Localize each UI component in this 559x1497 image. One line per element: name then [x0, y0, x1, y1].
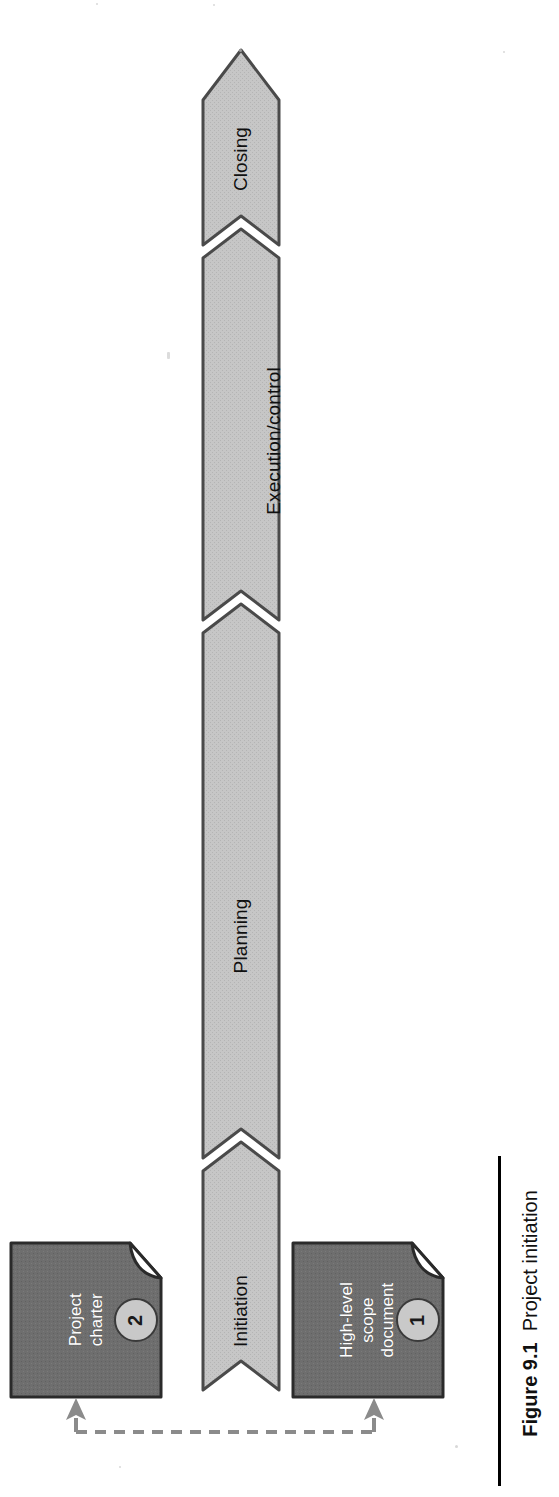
caption-figure-number: Figure 9.1 [519, 1342, 541, 1436]
scan-speck [167, 352, 170, 359]
figure-caption: Figure 9.1Project initiation [472, 0, 558, 1497]
scan-speck [503, 51, 505, 53]
scan-speck [455, 1445, 458, 1448]
scan-speck [213, 4, 215, 6]
document-badge-1-text: 1 [407, 1314, 430, 1325]
caption-rule [498, 1156, 501, 1486]
connector-dashed-double-arrow [50, 1398, 400, 1448]
connector-arrowhead-right-icon [364, 1398, 384, 1420]
document-badge-1: 1 [396, 1298, 440, 1342]
arrow-segment-execution [203, 229, 279, 620]
arrow-segment-closing [203, 50, 279, 245]
scan-speck [239, 49, 242, 52]
scan-speck [119, 1466, 121, 1468]
process-arrow [200, 48, 282, 1393]
document-project-charter: Projectcharter 2 [8, 1240, 164, 1400]
scan-speck [96, 3, 98, 5]
connector-arrowhead-left-icon [66, 1398, 86, 1420]
figure-canvas: Closing Execution/control Planning Initi… [0, 0, 559, 1497]
caption-inner: Figure 9.1Project initiation [519, 1190, 542, 1437]
document-badge-2: 2 [114, 1298, 158, 1342]
arrow-segment-initiation [203, 1142, 279, 1390]
caption-text-wrap: Figure 9.1Project initiation [506, 1160, 554, 1490]
document-high-level-scope: High-levelscopedocument 1 [290, 1240, 446, 1400]
arrow-segment-planning [203, 604, 279, 1158]
caption-figure-title: Project initiation [519, 1190, 541, 1331]
document-badge-2-text: 2 [125, 1314, 148, 1325]
